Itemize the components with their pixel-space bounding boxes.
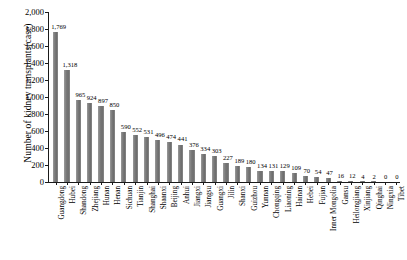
- bar-column: 227: [223, 12, 228, 182]
- x-tick-label: Anhui: [184, 186, 191, 204]
- x-tick-label: Guizhou: [252, 186, 259, 211]
- x-tick-mark: [135, 182, 136, 185]
- bar-value-label: 16: [338, 173, 345, 180]
- x-tick-mark: [328, 182, 329, 185]
- bar-value-label: 0: [384, 174, 387, 181]
- bar-column: 47: [326, 12, 331, 182]
- y-tick-mark: [45, 148, 48, 149]
- x-tick-label: Hubei: [70, 186, 77, 204]
- x-tick-label: Yunnan: [263, 186, 270, 208]
- y-axis-line: [48, 12, 49, 182]
- bar: [246, 167, 251, 182]
- bar-column: 0: [394, 12, 399, 182]
- bar-column: 303: [212, 12, 217, 182]
- bar-value-label: 12: [349, 173, 356, 180]
- x-tick-label: Ningxia: [388, 186, 395, 209]
- bar-column: 590: [121, 12, 126, 182]
- y-tick-label: 600: [4, 127, 44, 136]
- bar: [212, 156, 217, 182]
- bar-column: 0: [382, 12, 387, 182]
- y-tick-mark: [45, 63, 48, 64]
- y-tick-mark: [45, 131, 48, 132]
- bar-column: 12: [348, 12, 353, 182]
- bar-column: 70: [303, 12, 308, 182]
- y-tick-label: 1,800: [4, 25, 44, 34]
- x-tick-mark: [283, 182, 284, 185]
- y-tick-mark: [45, 12, 48, 13]
- bar-value-label: 924: [87, 95, 97, 102]
- x-tick-mark: [305, 182, 306, 185]
- bar-value-label: 897: [98, 98, 108, 105]
- bar-value-label: 303: [212, 148, 222, 155]
- x-tick-label: Shaanxi: [161, 186, 168, 209]
- x-tick-mark: [67, 182, 68, 185]
- x-tick-mark: [317, 182, 318, 185]
- x-tick-label: Shandong: [81, 186, 88, 215]
- bar-value-label: 129: [280, 163, 290, 170]
- x-tick-label: Xinjiang: [365, 186, 372, 211]
- y-tick-label: 1,000: [4, 93, 44, 102]
- x-tick-mark: [112, 182, 113, 185]
- bar-column: 1,769: [53, 12, 58, 182]
- x-tick-mark: [78, 182, 79, 185]
- bar: [98, 106, 103, 182]
- bar-column: 924: [87, 12, 92, 182]
- bar-column: 965: [76, 12, 81, 182]
- bar: [155, 140, 160, 182]
- bar: [201, 154, 206, 182]
- bar: [110, 110, 115, 182]
- bar: [121, 132, 126, 182]
- bar-value-label: 531: [144, 129, 154, 136]
- bar-value-label: 180: [246, 159, 256, 166]
- plot-area: 2,0001,8001,6001,4001,2001,0008006004002…: [48, 12, 400, 182]
- bar-column: 334: [201, 12, 206, 182]
- bar-value-label: 474: [166, 134, 176, 141]
- y-tick-mark: [45, 182, 48, 183]
- bar-value-label: 131: [268, 163, 278, 170]
- bar-column: 474: [167, 12, 172, 182]
- bar-column: 1,318: [64, 12, 69, 182]
- bar-column: 189: [235, 12, 240, 182]
- x-tick-label: Liaoning: [286, 186, 293, 212]
- x-tick-label: Tibet: [399, 186, 406, 201]
- x-tick-mark: [271, 182, 272, 185]
- bar-column: 109: [292, 12, 297, 182]
- bar-value-label: 134: [257, 163, 267, 170]
- bar: [235, 166, 240, 182]
- y-tick-label: 2,000: [4, 8, 44, 17]
- y-tick-mark: [45, 165, 48, 166]
- bar: [178, 145, 183, 182]
- x-tick-label: Guangxi: [218, 186, 225, 211]
- bar-column: 129: [280, 12, 285, 182]
- bar-value-label: 376: [189, 142, 199, 149]
- x-tick-mark: [374, 182, 375, 185]
- x-tick-mark: [340, 182, 341, 185]
- x-tick-mark: [294, 182, 295, 185]
- x-tick-label: Gansu: [343, 186, 350, 204]
- x-tick-mark: [158, 182, 159, 185]
- bar: [53, 32, 58, 182]
- bar-column: 376: [189, 12, 194, 182]
- bar: [87, 103, 92, 182]
- bar-value-label: 109: [291, 165, 301, 172]
- x-tick-label: Hainan: [297, 186, 304, 207]
- bar-value-label: 189: [234, 158, 244, 165]
- bar-value-label: 0: [395, 174, 398, 181]
- x-tick-mark: [124, 182, 125, 185]
- x-tick-mark: [237, 182, 238, 185]
- x-tick-label: Heilongjiang: [354, 186, 361, 224]
- bar-value-label: 590: [121, 124, 131, 131]
- bar-value-label: 334: [200, 146, 210, 153]
- bar-column: 552: [133, 12, 138, 182]
- y-tick-label: 1,200: [4, 76, 44, 85]
- y-tick-label: 400: [4, 144, 44, 153]
- x-tick-label: Fujian: [320, 186, 327, 204]
- x-tick-label: Chongqing: [274, 186, 281, 218]
- x-tick-mark: [362, 182, 363, 185]
- x-tick-label: Shanxi: [240, 186, 247, 206]
- bar-column: 2: [371, 12, 376, 182]
- bar-value-label: 552: [132, 127, 142, 134]
- bar-column: 54: [314, 12, 319, 182]
- y-tick-mark: [45, 97, 48, 98]
- bar-column: 180: [246, 12, 251, 182]
